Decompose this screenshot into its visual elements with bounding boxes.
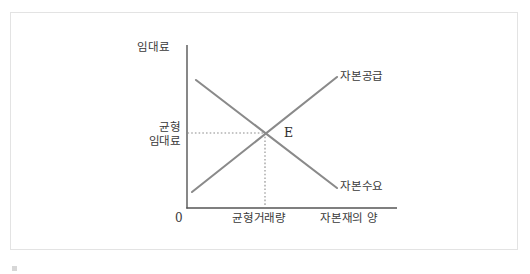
equilibrium-price-label-line2: 임대료 bbox=[133, 134, 181, 148]
supply-demand-chart bbox=[0, 0, 530, 274]
equilibrium-point-label: E bbox=[284, 126, 293, 140]
equilibrium-price-label-line1: 균형 bbox=[133, 120, 181, 134]
x-axis-title: 자본재의 양 bbox=[320, 211, 377, 225]
caption-strip bbox=[12, 264, 312, 274]
demand-curve-label: 자본수요 bbox=[340, 179, 383, 193]
y-axis-title: 임대료 bbox=[137, 40, 169, 54]
caption-bullet-icon bbox=[12, 266, 17, 271]
origin-label: 0 bbox=[175, 211, 182, 225]
supply-curve-label: 자본공급 bbox=[340, 69, 383, 83]
equilibrium-price-label: 균형 임대료 bbox=[133, 120, 181, 148]
equilibrium-quantity-label: 균형거래량 bbox=[232, 211, 286, 225]
